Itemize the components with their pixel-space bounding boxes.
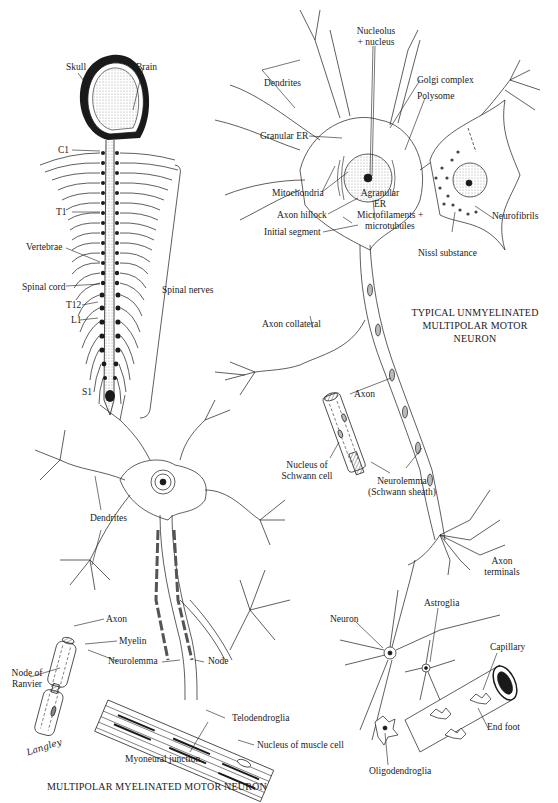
myelinated-neuron-drawing (30, 395, 290, 802)
label-s1: S1 (82, 387, 92, 398)
label-axon-hillock: Axon hillock (277, 210, 327, 221)
label-end-foot: End foot (487, 722, 520, 733)
label-l1: L1 (71, 315, 82, 326)
label-microfilaments: Microfilaments + microtubules (357, 210, 423, 232)
label-axon-terminals: Axon terminals (480, 556, 524, 578)
label-c1: C1 (58, 145, 69, 156)
label-axon-top: Axon (354, 389, 375, 400)
label-dendrites-top: Dendrites (264, 78, 301, 89)
illustration-artwork (0, 0, 558, 803)
label-nucleus-of-muscle-cell: Nucleus of muscle cell (257, 740, 344, 751)
label-nucleolus-nucleus: Nucleolus + nucleus (356, 26, 396, 48)
neuron-illustration-page: Skull Brain C1 T1 Vertebrae Spinal cord … (0, 0, 558, 803)
label-vertebrae: Vertebrae (26, 242, 62, 253)
title-myelinated-neuron: MULTIPOLAR MYELINATED MOTOR NEURON (47, 780, 257, 793)
label-polysome: Polysome (417, 91, 454, 102)
label-node-of-ranvier: Node of Ranvier (6, 668, 48, 690)
label-neurolemma: Neurolemma (108, 656, 158, 667)
label-spinal-cord: Spinal cord (22, 282, 66, 293)
label-myelin: Myelin (119, 636, 146, 647)
label-brain: Brain (136, 62, 157, 73)
label-axon-myelinated: Axon (106, 614, 127, 625)
label-initial-segment: Initial segment (264, 227, 321, 238)
label-mitochondria: Mitochondria (272, 188, 324, 199)
label-neurolemma-schwann: Neurolemma (Schwann sheath) (367, 476, 437, 498)
label-neuron: Neuron (330, 614, 359, 625)
label-agranular-er: Agranular ER (360, 188, 400, 210)
label-dendrites-bottom: Dendrites (90, 513, 127, 524)
label-telodendroglia: Telodendroglia (232, 713, 289, 724)
label-neurofibrils: Neurofibrils (492, 211, 538, 222)
label-schwann-nucleus: Nucleus of Schwann cell (276, 460, 338, 482)
label-nissl-substance: Nissl substance (418, 248, 477, 259)
label-oligodendroglia: Oligodendroglia (369, 766, 431, 777)
label-t12: T12 (66, 300, 81, 311)
neuroglia-drawing (340, 560, 522, 765)
label-axon-collateral: Axon collateral (262, 319, 321, 330)
label-t1: T1 (56, 207, 67, 218)
label-astroglia: Astroglia (424, 598, 459, 609)
label-skull: Skull (66, 62, 86, 73)
title-unmyelinated-neuron: TYPICAL UNMYELINATED MULTIPOLAR MOTOR NE… (400, 306, 550, 345)
label-node: Node (208, 656, 229, 667)
label-capillary: Capillary (490, 642, 525, 653)
label-granular-er: Granular ER (260, 131, 308, 142)
label-myoneural-junction: Myoneural junction (125, 754, 200, 765)
label-spinal-nerves: Spinal nerves (162, 285, 213, 296)
spinal-column-drawing (40, 55, 180, 418)
label-golgi-complex: Golgi complex (417, 75, 474, 86)
